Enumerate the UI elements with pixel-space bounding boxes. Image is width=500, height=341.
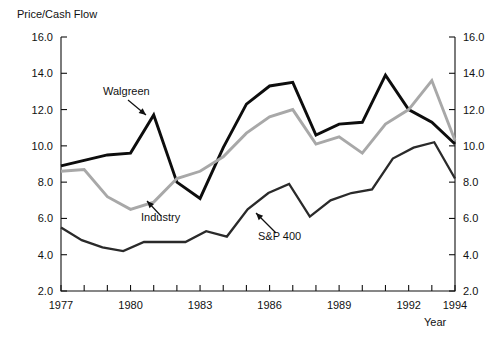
annotation-label-walgreen: Walgreen (103, 85, 150, 97)
y-tick-label-left: 2.0 (38, 285, 53, 297)
y-tick-label-left: 8.0 (38, 176, 53, 188)
x-tick-label: 1992 (396, 299, 420, 311)
x-tick-label: 1986 (257, 299, 281, 311)
data-series (61, 75, 455, 251)
x-tick-label: 1989 (327, 299, 351, 311)
chart-figure: Price/Cash Flow Year 2.02.04.04.06.06.08… (0, 0, 500, 341)
y-tick-label-right: 4.0 (463, 249, 478, 261)
x-tick-label: 1994 (443, 299, 467, 311)
y-tick-label-left: 16.0 (32, 31, 53, 43)
annotation-label-s-p-400: S&P 400 (258, 230, 301, 242)
y-tick-label-right: 14.0 (463, 67, 484, 79)
axis-frame (61, 37, 455, 291)
y-tick-label-left: 12.0 (32, 104, 53, 116)
series-line (61, 81, 455, 210)
y-tick-label-right: 8.0 (463, 176, 478, 188)
y-tick-label-left: 6.0 (38, 212, 53, 224)
y-tick-label-left: 14.0 (32, 67, 53, 79)
x-tick-label: 1980 (118, 299, 142, 311)
x-tick-label: 1983 (188, 299, 212, 311)
y-tick-label-left: 10.0 (32, 140, 53, 152)
axes: 2.02.04.04.06.06.08.08.010.010.012.012.0… (32, 31, 485, 311)
y-tick-label-right: 2.0 (463, 285, 478, 297)
y-tick-label-right: 10.0 (463, 140, 484, 152)
x-tick-label: 1977 (49, 299, 73, 311)
y-tick-label-left: 4.0 (38, 249, 53, 261)
plot-area: 2.02.04.04.06.06.08.08.010.010.012.012.0… (0, 0, 500, 341)
y-tick-label-right: 6.0 (463, 212, 478, 224)
y-tick-label-right: 16.0 (463, 31, 484, 43)
annotation-label-industry: Industry (141, 211, 181, 223)
annotations: WalgreenIndustryS&P 400 (103, 85, 301, 242)
y-tick-label-right: 12.0 (463, 104, 484, 116)
